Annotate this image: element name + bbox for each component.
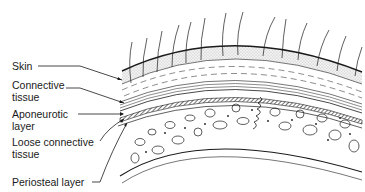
label-loose-connective-tissue-line2: tissue: [12, 148, 94, 160]
label-loose-connective-tissue: Loose connective tissue: [12, 136, 94, 160]
label-loose-connective-tissue-line1: Loose connective: [12, 136, 94, 148]
leader-periosteal: [92, 123, 127, 182]
leader-connective-tissue: [66, 88, 124, 103]
periosteum-layer: [120, 97, 362, 124]
skin-layer: [122, 12, 362, 84]
label-periosteal-layer-text: Periosteal layer: [12, 176, 84, 188]
label-connective-tissue: Connective tissue: [12, 79, 65, 103]
label-connective-tissue-line2: tissue: [12, 91, 65, 103]
label-aponeurotic-layer-line2: layer: [12, 120, 68, 132]
label-skin: Skin: [12, 60, 32, 72]
label-connective-tissue-line1: Connective: [12, 79, 65, 91]
leader-loose-connective: [100, 119, 124, 141]
label-aponeurotic-layer-line1: Aponeurotic: [12, 108, 68, 120]
label-skin-text: Skin: [12, 60, 32, 72]
label-periosteal-layer: Periosteal layer: [12, 176, 84, 188]
leader-skin: [38, 66, 122, 80]
label-aponeurotic-layer: Aponeurotic layer: [12, 108, 68, 132]
